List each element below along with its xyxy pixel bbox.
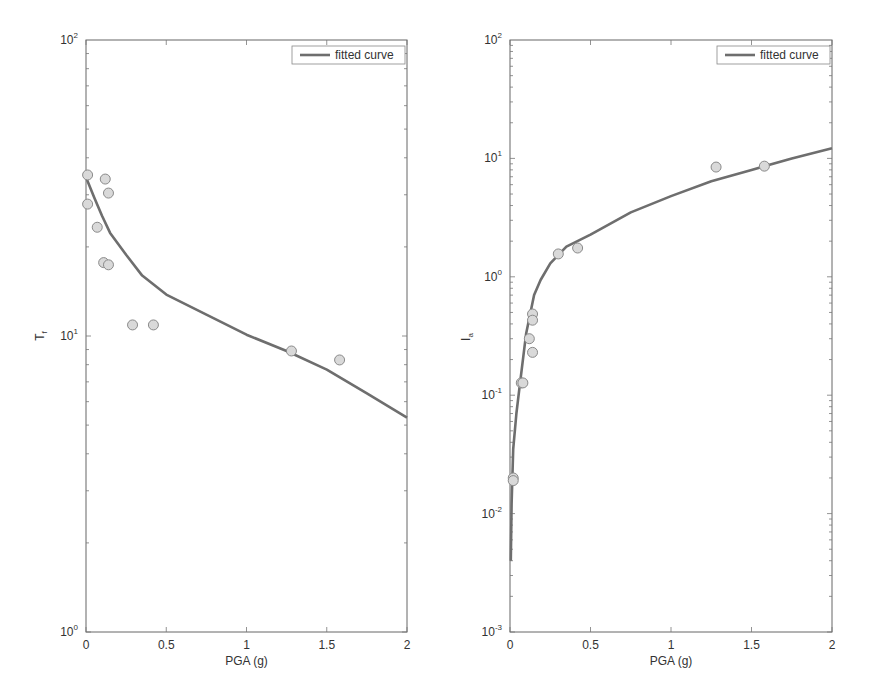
- data-point: [103, 188, 113, 198]
- data-point: [100, 174, 110, 184]
- data-point: [286, 346, 296, 356]
- legend: fitted curve: [292, 46, 405, 64]
- data-point: [553, 249, 563, 259]
- y-tick-label: 100: [484, 268, 502, 284]
- data-point: [335, 355, 345, 365]
- data-point: [508, 476, 518, 486]
- y-tick-label: 10-2: [482, 505, 503, 521]
- y-tick-label: 100: [60, 623, 78, 639]
- x-tick-label: 2: [829, 638, 836, 652]
- y-tick-label: 101: [484, 149, 502, 165]
- chart-panel-2: 10-310-210-110010110200.511.52PGA (g)Iaf…: [459, 31, 836, 668]
- y-tick-label: 10-1: [482, 386, 503, 402]
- x-tick-label: 0: [507, 638, 514, 652]
- x-tick-label: 2: [404, 638, 411, 652]
- data-point: [711, 162, 721, 172]
- data-point: [573, 243, 583, 253]
- fitted-curve-line: [511, 148, 832, 561]
- x-tick-label: 1.5: [743, 638, 760, 652]
- y-tick-label: 101: [60, 327, 78, 343]
- legend-label: fitted curve: [760, 48, 819, 62]
- legend-label: fitted curve: [335, 48, 394, 62]
- data-point: [524, 334, 534, 344]
- x-tick-label: 1: [243, 638, 250, 652]
- y-tick-label: 10-3: [482, 623, 503, 639]
- data-point: [148, 320, 158, 330]
- data-point: [128, 320, 138, 330]
- x-tick-label: 0: [83, 638, 90, 652]
- chart-panel-1: 10010110200.511.52PGA (g)Tffitted curve: [33, 31, 411, 668]
- data-point: [759, 161, 769, 171]
- x-axis-label: PGA (g): [650, 654, 693, 668]
- x-tick-label: 0.5: [158, 638, 175, 652]
- plot-area: [510, 40, 832, 632]
- legend: fitted curve: [717, 46, 830, 64]
- data-point: [83, 170, 93, 180]
- chart-canvas: 10010110200.511.52PGA (g)Tffitted curve1…: [0, 0, 873, 694]
- data-point: [83, 199, 93, 209]
- x-tick-label: 1: [668, 638, 675, 652]
- fitted-curve-line: [86, 177, 407, 417]
- data-point: [103, 260, 113, 270]
- data-point: [528, 347, 538, 357]
- data-point: [528, 315, 538, 325]
- x-tick-label: 0.5: [582, 638, 599, 652]
- data-point: [92, 222, 102, 232]
- y-axis-label: Tf: [33, 330, 49, 340]
- x-tick-label: 1.5: [318, 638, 335, 652]
- data-point: [518, 378, 528, 388]
- y-axis-label: Ia: [459, 333, 475, 341]
- y-tick-label: 102: [484, 31, 502, 47]
- y-tick-label: 102: [60, 31, 78, 47]
- x-axis-label: PGA (g): [225, 654, 268, 668]
